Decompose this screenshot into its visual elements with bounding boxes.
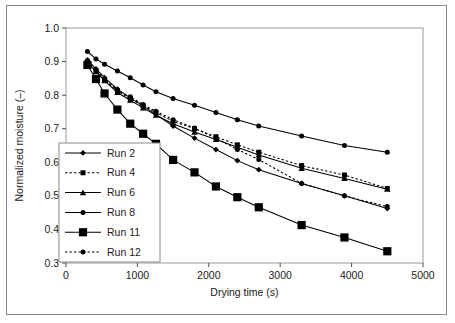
- marker-circle: [153, 109, 158, 114]
- marker-circle: [93, 56, 98, 61]
- chart-legend: Run 2Run 4Run 6Run 8Run 11Run 12: [59, 143, 160, 262]
- marker-circle: [81, 210, 86, 215]
- marker-circle: [235, 147, 240, 152]
- legend-label: Run 4: [107, 166, 135, 178]
- marker-big-square: [79, 228, 87, 236]
- y-tick-label: 0.8: [44, 89, 59, 101]
- marker-circle: [171, 117, 176, 122]
- y-tick-label: 1.0: [44, 22, 59, 34]
- legend-label: Run 2: [107, 147, 135, 159]
- marker-circle: [256, 157, 261, 162]
- marker-circle: [128, 75, 133, 80]
- marker-circle: [102, 77, 107, 82]
- marker-big-square: [113, 105, 121, 113]
- marker-circle: [81, 250, 86, 255]
- marker-square: [81, 170, 86, 175]
- marker-circle: [85, 58, 90, 63]
- x-tick-label: 1000: [126, 269, 150, 281]
- y-axis-title-group: Normalized moisture (–): [13, 89, 25, 201]
- marker-big-square: [255, 203, 263, 211]
- marker-big-square: [92, 75, 100, 83]
- marker-circle: [385, 204, 390, 209]
- marker-circle: [342, 143, 347, 148]
- marker-circle: [85, 49, 90, 54]
- marker-circle: [235, 117, 240, 122]
- marker-big-square: [100, 89, 108, 97]
- y-tick-label: 0.6: [44, 156, 59, 168]
- marker-circle: [342, 193, 347, 198]
- legend-label: Run 8: [107, 206, 135, 218]
- marker-circle: [93, 67, 98, 72]
- marker-circle: [192, 126, 197, 131]
- y-tick-label: 0.7: [44, 122, 59, 134]
- y-axis-title: Normalized moisture (–): [13, 89, 25, 201]
- marker-circle: [256, 124, 261, 129]
- marker-circle: [141, 102, 146, 107]
- y-tick-label: 0.4: [44, 223, 59, 235]
- marker-circle: [153, 89, 158, 94]
- legend-label: Run 6: [107, 186, 135, 198]
- marker-big-square: [126, 120, 134, 128]
- marker-circle: [299, 134, 304, 139]
- marker-circle: [171, 96, 176, 101]
- marker-big-square: [233, 193, 241, 201]
- drying-curve-chart: 0.30.40.50.60.70.80.91.00100020003000400…: [0, 0, 455, 323]
- marker-circle: [102, 62, 107, 67]
- y-tick-label: 0.3: [44, 257, 59, 269]
- marker-circle: [128, 94, 133, 99]
- chart-figure: 0.30.40.50.60.70.80.91.00100020003000400…: [0, 0, 455, 323]
- marker-circle: [115, 88, 120, 93]
- x-tick-label: 5000: [411, 269, 435, 281]
- marker-circle: [213, 110, 218, 115]
- marker-circle: [299, 181, 304, 186]
- legend-label: Run 11: [107, 226, 140, 238]
- x-tick-label: 3000: [269, 269, 293, 281]
- marker-big-square: [190, 168, 198, 176]
- marker-big-square: [169, 156, 177, 164]
- marker-circle: [213, 136, 218, 141]
- y-tick-label: 0.9: [44, 55, 59, 67]
- marker-big-square: [212, 182, 220, 190]
- marker-circle: [192, 103, 197, 108]
- marker-circle: [141, 83, 146, 88]
- marker-big-square: [383, 247, 391, 255]
- marker-big-square: [340, 233, 348, 241]
- y-tick-label: 0.5: [44, 189, 59, 201]
- legend-box: [59, 143, 160, 262]
- marker-big-square: [298, 221, 306, 229]
- x-tick-label: 0: [63, 269, 69, 281]
- marker-circle: [385, 150, 390, 155]
- x-tick-label: 2000: [197, 269, 221, 281]
- marker-circle: [115, 68, 120, 73]
- legend-label: Run 12: [107, 246, 141, 258]
- x-tick-label: 4000: [340, 269, 364, 281]
- marker-big-square: [139, 130, 147, 138]
- x-axis-title: Drying time (s): [210, 286, 278, 298]
